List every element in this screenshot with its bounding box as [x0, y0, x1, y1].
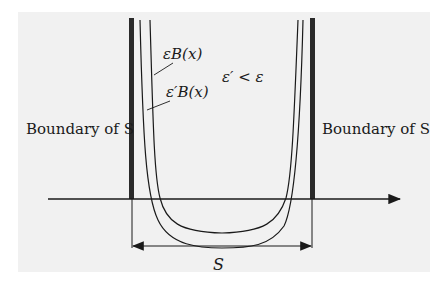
relation-label: ε′ < ε	[222, 68, 264, 86]
barrier-function-diagram: Boundary of S Boundary of S εB(x) ε′B(x)…	[0, 0, 447, 283]
leader-epsilon-b	[154, 63, 173, 75]
left-boundary-bar	[129, 18, 134, 199]
curve-epsilon-prime-b-label: ε′B(x)	[166, 83, 209, 101]
leader-epsilon-prime-b	[147, 101, 170, 110]
boundary-left-label: Boundary of S	[26, 120, 134, 138]
set-s-label: S	[213, 255, 224, 274]
curve-epsilon-b-label: εB(x)	[163, 45, 202, 63]
right-boundary-bar	[310, 18, 315, 199]
boundary-right-label: Boundary of S	[322, 120, 430, 138]
